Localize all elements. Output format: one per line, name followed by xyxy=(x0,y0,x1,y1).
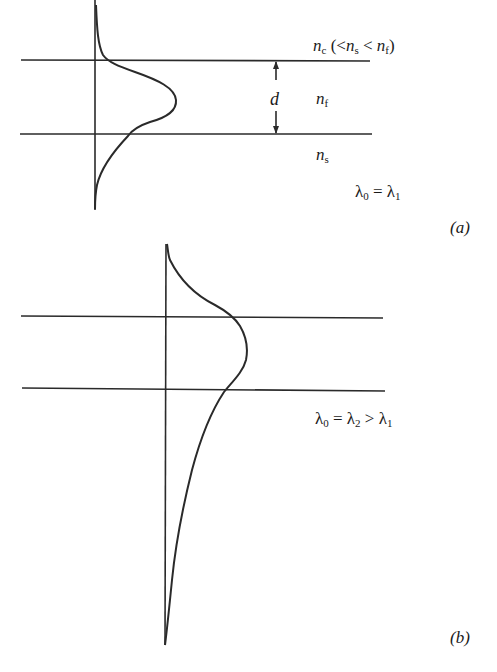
panel-b-axis xyxy=(165,244,166,645)
equals-sign: = xyxy=(373,182,383,201)
panel-b-mode-profile xyxy=(165,244,247,645)
lambda-2-symbol: λ xyxy=(347,409,355,428)
thickness-label: d xyxy=(270,90,279,108)
equals-sign: = xyxy=(333,409,343,428)
cover-index-sub: c xyxy=(322,44,327,56)
panel-b xyxy=(21,244,385,645)
panel-b-wavelength-label: λ0 = λ2 > λ1 xyxy=(315,410,392,429)
film-index-sub: f xyxy=(325,97,329,109)
lambda-1-symbol: λ xyxy=(379,409,387,428)
relation-substrate-sub: s xyxy=(354,44,358,56)
film-index-symbol: n xyxy=(316,89,325,108)
greater-than-sign: > xyxy=(365,409,375,428)
substrate-index-symbol: n xyxy=(316,145,325,164)
panel-b-upper-interface xyxy=(21,316,383,318)
lambda-0-sub: 0 xyxy=(323,417,329,429)
lambda-2-sub: 2 xyxy=(355,417,361,429)
relation-less-than: < xyxy=(363,36,373,55)
panel-a-upper-interface xyxy=(21,60,370,61)
panel-a-wavelength-label: λ0 = λ1 xyxy=(355,183,401,202)
relation-close: ) xyxy=(389,36,395,55)
thickness-arrow-head-top xyxy=(273,61,279,69)
waveguide-mode-diagram xyxy=(0,0,497,672)
panel-a-mode-profile xyxy=(95,5,176,209)
lambda-1-sub: 1 xyxy=(395,190,401,202)
lambda-0-symbol: λ xyxy=(315,409,323,428)
lambda-1-symbol: λ xyxy=(387,182,395,201)
panel-a-caption: (a) xyxy=(450,219,470,236)
cover-index-symbol: n xyxy=(313,36,322,55)
relation-open: (< xyxy=(331,36,346,55)
relation-film-symbol: n xyxy=(377,36,386,55)
lambda-0-symbol: λ xyxy=(355,182,363,201)
panel-b-caption: (b) xyxy=(450,629,470,646)
substrate-index-label: ns xyxy=(316,146,329,165)
lambda-0-sub: 0 xyxy=(363,190,369,202)
lambda-1-sub: 1 xyxy=(387,417,393,429)
panel-b-lower-interface xyxy=(22,388,385,391)
substrate-index-sub: s xyxy=(325,153,329,165)
film-index-label: nf xyxy=(316,90,328,109)
cover-index-label: nc (<ns < nf) xyxy=(313,37,395,56)
thickness-arrow-head-bottom xyxy=(273,126,279,134)
